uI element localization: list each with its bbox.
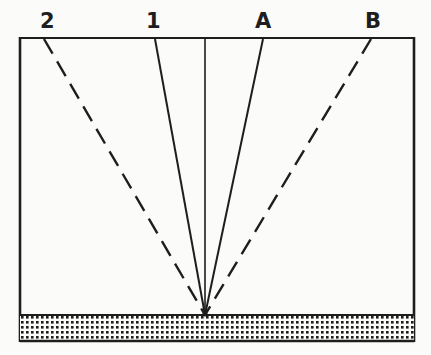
label-1: 1 (146, 9, 161, 33)
ray-a-solid (205, 39, 263, 315)
reflecting-surface (20, 315, 414, 341)
label-a: A (255, 9, 272, 33)
label-b: B (365, 9, 381, 33)
ray-b-dashed (205, 39, 371, 315)
label-2: 2 (40, 9, 55, 33)
reflection-diagram: 2 1 A B (0, 0, 431, 355)
convergence-point (203, 312, 208, 317)
rays (44, 39, 371, 317)
